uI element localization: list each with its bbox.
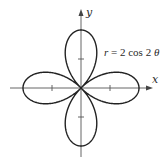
y-axis-label: y [85,6,93,19]
equation-theta: θ [154,46,160,58]
x-axis-arrow-icon [146,86,153,91]
equation-rest: = 2 cos 2 [111,46,151,58]
equation-label: r = 2 cos 2 θ [104,46,160,58]
polar-rose-chart: x y r = 2 cos 2 θ [0,0,165,162]
y-axis-arrow-icon [79,9,84,16]
x-axis-label: x [152,73,159,86]
equation-r: r [104,46,109,58]
